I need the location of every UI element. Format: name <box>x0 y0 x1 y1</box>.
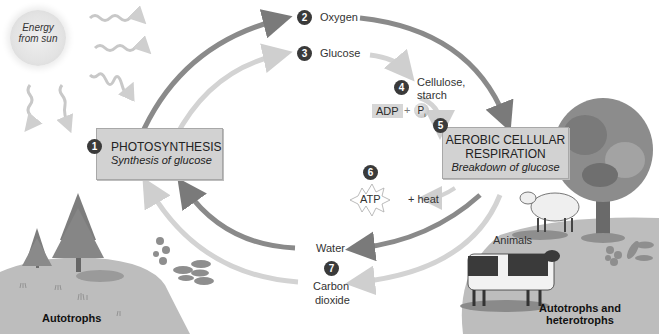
heat-label: + heat <box>408 193 439 205</box>
photosynthesis-title: PHOTOSYNTHESIS <box>111 140 221 154</box>
respiration-subtitle: Breakdown of glucose <box>443 161 568 173</box>
microorganisms-left <box>153 237 214 285</box>
respiration-title-line2: RESPIRATION <box>443 147 568 161</box>
sun: Energy from sun <box>10 10 66 66</box>
adp-plus: + <box>404 104 410 116</box>
step-badge-4: 4 <box>394 80 409 95</box>
oxygen-label: Oxygen <box>320 11 358 23</box>
sun-label-line2: from sun <box>10 33 66 44</box>
water-label: Water <box>316 242 345 254</box>
step-badge-1: 1 <box>87 139 102 154</box>
step-badge-5: 5 <box>433 118 448 133</box>
autotrophs-heterotrophs-label: Autotrophs and heterotrophs <box>539 302 621 326</box>
glucose-label: Glucose <box>320 47 360 59</box>
dioxide-label: dioxide <box>315 294 350 306</box>
step-badge-2: 2 <box>297 10 312 25</box>
auto-hetero-line2: heterotrophs <box>539 314 621 326</box>
photosynthesis-box: PHOTOSYNTHESIS Synthesis of glucose <box>96 128 223 180</box>
animals-label: Animals <box>493 234 532 246</box>
phosphate-icon: Pi <box>414 103 429 118</box>
cellulose-label: Cellulose, <box>417 76 465 88</box>
step-badge-7: 7 <box>324 261 339 276</box>
adp-label: ADP <box>372 104 403 118</box>
carbon-label: Carbon <box>313 280 349 292</box>
starch-label: starch <box>417 89 447 101</box>
auto-hetero-line1: Autotrophs and <box>539 302 621 314</box>
sun-label-line1: Energy <box>10 22 66 33</box>
autotrophs-label: Autotrophs <box>42 312 101 324</box>
respiration-title-line1: AEROBIC CELLULAR <box>443 133 568 147</box>
atp-label: ATP <box>360 193 381 205</box>
aerobic-respiration-box: AEROBIC CELLULAR RESPIRATION Breakdown o… <box>442 127 569 179</box>
phosphate-subscript: i <box>424 112 425 118</box>
photosynthesis-subtitle: Synthesis of glucose <box>111 154 212 166</box>
step-badge-3: 3 <box>297 46 312 61</box>
step-badge-6: 6 <box>363 165 378 180</box>
